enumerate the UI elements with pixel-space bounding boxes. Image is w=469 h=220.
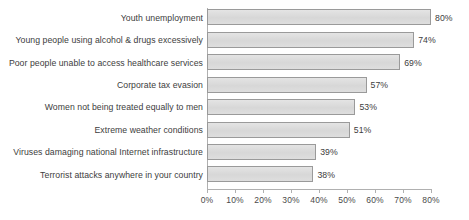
category-label: Extreme weather conditions	[0, 125, 203, 135]
category-label: Women not being treated equally to men	[0, 102, 203, 112]
x-axis-tick	[207, 189, 208, 193]
bar	[207, 77, 367, 93]
bar-chart: 0%10%20%30%40%50%60%70%80% Youth unemplo…	[0, 0, 469, 220]
category-label: Viruses damaging national Internet infra…	[0, 147, 203, 157]
x-axis-tick	[319, 189, 320, 193]
bar	[207, 166, 313, 182]
bar	[207, 144, 316, 160]
value-label: 39%	[320, 147, 338, 157]
x-axis-tick	[291, 189, 292, 193]
value-label: 53%	[359, 102, 377, 112]
x-axis-tick	[263, 189, 264, 193]
x-axis-tick	[403, 189, 404, 193]
category-label: Young people using alcohol & drugs exces…	[0, 35, 203, 45]
category-label: Youth unemployment	[0, 13, 203, 23]
category-label: Poor people unable to access healthcare …	[0, 58, 203, 68]
bar	[207, 32, 414, 48]
category-label: Terrorist attacks anywhere in your count…	[0, 170, 203, 180]
x-axis-tick	[347, 189, 348, 193]
value-label: 51%	[354, 125, 372, 135]
x-axis-tick	[375, 189, 376, 193]
value-label: 74%	[418, 35, 436, 45]
value-label: 57%	[371, 80, 389, 90]
value-label: 80%	[435, 13, 453, 23]
bar	[207, 54, 400, 70]
value-label: 38%	[317, 170, 335, 180]
bar	[207, 99, 355, 115]
category-label: Corporate tax evasion	[0, 80, 203, 90]
x-axis-tick-label: 80%	[411, 195, 451, 205]
x-axis-tick	[431, 189, 432, 193]
value-label: 69%	[404, 58, 422, 68]
plot-area: 0%10%20%30%40%50%60%70%80% Youth unemplo…	[0, 0, 469, 220]
x-axis-tick	[235, 189, 236, 193]
bar	[207, 9, 431, 25]
bar	[207, 122, 350, 138]
